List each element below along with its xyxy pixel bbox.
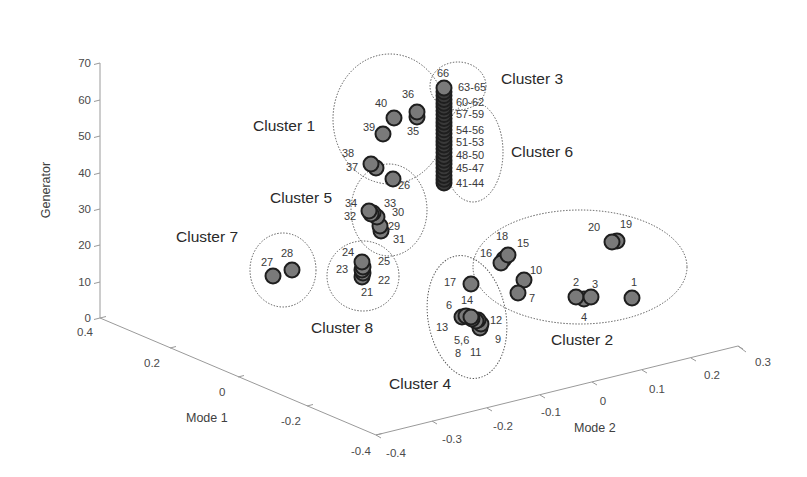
data-point-36 [410, 105, 425, 120]
point-label: 13 [436, 321, 448, 333]
cluster-label: Cluster 3 [501, 70, 563, 87]
point-label: 24 [342, 246, 354, 258]
mode2-tick-label: -0.2 [493, 420, 513, 432]
z-tick-label: 10 [78, 276, 91, 288]
z-tick-label: 40 [78, 167, 91, 179]
data-point-34 [362, 204, 377, 219]
mode1-tick-label: 0.2 [144, 357, 160, 369]
point-label: 39 [363, 121, 375, 133]
point-label: 6 [446, 299, 452, 311]
mode2-tick [540, 395, 545, 398]
point-label: 8 [455, 347, 461, 359]
mode2-axis-label: Mode 2 [574, 421, 616, 435]
3d-scatter-chart: 706050403020100 0.40.20-0.2-0.4 -0.4-0.3… [0, 0, 807, 477]
mode2-axis-ticks: -0.4-0.3-0.2-0.100.10.20.3 [376, 346, 771, 459]
mode2-tick-label: 0.2 [704, 369, 720, 381]
mode2-tick [487, 408, 492, 411]
data-point-15 [501, 248, 516, 263]
z-axis-label: Generator [39, 162, 53, 218]
point-label: 11 [470, 346, 481, 358]
point-label: 26 [398, 179, 410, 191]
plot-area: 706050403020100 0.40.20-0.2-0.4 -0.4-0.3… [0, 0, 807, 477]
point-label: 2 [573, 276, 579, 288]
cluster-label: Cluster 4 [389, 375, 451, 392]
point-label: 57-59 [456, 108, 484, 120]
point-label: 29 [388, 220, 400, 232]
mode1-tick-label: 0 [219, 386, 225, 398]
point-label: 31 [393, 233, 405, 245]
mode2-tick-label: -0.4 [386, 447, 406, 459]
point-label: 10 [530, 264, 542, 276]
data-point-2 [569, 290, 584, 305]
z-tick [94, 209, 100, 211]
z-tick-label: 50 [78, 130, 91, 142]
point-label: 5,6 [454, 334, 469, 346]
point-label: 41-44 [456, 177, 484, 189]
point-label: 66 [437, 67, 449, 79]
mode1-axis-ticks: 0.40.20-0.2-0.4 [77, 317, 382, 458]
mode1-tick [100, 317, 106, 319]
point-label: 16 [480, 247, 492, 259]
data-point-27 [266, 269, 281, 284]
z-tick [94, 245, 100, 247]
mode2-tick-label: -0.1 [541, 406, 561, 418]
point-label: 54-56 [456, 124, 484, 136]
point-label: 21 [361, 286, 373, 298]
mode2-tick [376, 435, 381, 438]
point-label: 63-65 [458, 81, 486, 93]
mode1-tick-label: -0.2 [281, 415, 301, 427]
point-label: 3 [592, 278, 598, 290]
cluster-label: Cluster 1 [253, 117, 315, 134]
cluster-7-outline [250, 233, 316, 307]
point-label: 36 [402, 88, 414, 100]
data-point-17 [464, 277, 479, 292]
point-label: 25 [378, 255, 390, 267]
data-point-1 [625, 291, 640, 306]
point-label: 12 [490, 314, 502, 326]
cluster-label: Cluster 6 [511, 143, 573, 160]
z-tick [94, 100, 100, 102]
point-label: 17 [444, 276, 456, 288]
point-label: 20 [588, 221, 600, 233]
point-label: 27 [261, 256, 273, 268]
mode2-tick [691, 358, 696, 361]
z-tick-label: 30 [78, 203, 91, 215]
point-label: 37 [346, 161, 358, 173]
z-axis-ticks: 706050403020100 [78, 57, 100, 324]
point-label: 35 [407, 125, 419, 137]
z-tick [94, 136, 100, 138]
mode1-axis-label: Mode 1 [186, 411, 228, 425]
point-label: 48-50 [456, 149, 484, 161]
data-point-20 [605, 235, 620, 250]
point-label: 15 [517, 237, 529, 249]
data-points [266, 105, 640, 336]
z-tick [94, 318, 100, 320]
mode1-tick-label: -0.4 [351, 445, 371, 457]
cluster-label: Cluster 8 [311, 319, 373, 336]
point-label: 28 [281, 247, 293, 259]
point-label: 23 [336, 263, 348, 275]
point-label: 14 [461, 294, 473, 306]
z-tick-label: 20 [78, 239, 91, 251]
data-point-40 [387, 111, 402, 126]
point-label: 4 [581, 311, 587, 323]
mode2-tick-label: 0.3 [755, 356, 771, 368]
data-point-7 [511, 286, 526, 301]
point-label: 51-53 [456, 136, 484, 148]
cluster-label: Cluster 2 [551, 331, 613, 348]
cluster-label: Cluster 5 [270, 189, 332, 206]
point-label: 7 [529, 292, 535, 304]
point-label: 34 [345, 197, 357, 209]
point-label: 22 [378, 274, 390, 286]
point-label: 18 [496, 230, 508, 242]
data-point-28 [285, 263, 300, 278]
point-label: 45-47 [456, 162, 484, 174]
mode2-tick [592, 382, 597, 385]
mode2-tick [738, 346, 743, 349]
data-point-3 [584, 290, 599, 305]
mode2-tick [642, 370, 647, 373]
point-label: 19 [620, 218, 632, 230]
data-point-24 [355, 255, 370, 270]
data-point-marker [437, 81, 452, 96]
mode2-tick-label: -0.3 [442, 433, 462, 445]
